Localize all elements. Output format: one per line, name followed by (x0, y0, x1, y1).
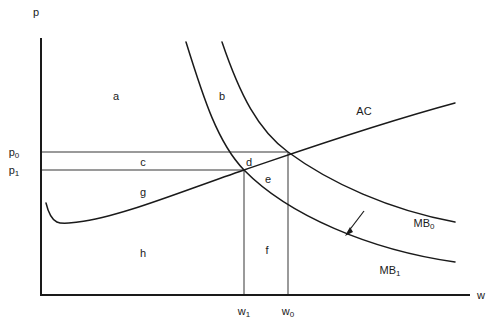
region-label-c: c (140, 157, 146, 168)
region-label-f: f (265, 245, 268, 256)
region-label-g: g (140, 187, 146, 198)
curve-label-mb1: MB1 (380, 265, 401, 276)
y-axis-label: p (33, 7, 39, 18)
economics-diagram: p w p0 p1 w1 w0 AC MB0 MB1 a b c d e f g… (0, 0, 499, 330)
curve-label-mb0: MB0 (414, 218, 435, 229)
x-tick-w0: w0 (282, 306, 294, 317)
curve-label-mb1-base: MB (380, 264, 397, 276)
y-tick-p1-sub: 1 (15, 169, 19, 178)
curve-label-ac: AC (356, 106, 371, 117)
x-tick-w0-base: w (282, 305, 290, 317)
curve-label-mb1-sub: 1 (396, 269, 400, 278)
region-label-d: d (246, 157, 252, 168)
y-tick-p0-sub: 0 (15, 151, 19, 160)
x-tick-w0-sub: 0 (290, 310, 294, 319)
curve-label-ac-base: AC (356, 105, 371, 117)
shift-arrow (345, 211, 364, 236)
x-tick-w1: w1 (238, 306, 250, 317)
y-tick-p0: p0 (9, 147, 20, 158)
x-axis-label: w (477, 290, 485, 301)
region-label-h: h (140, 248, 146, 259)
region-label-b: b (219, 91, 225, 102)
x-tick-w1-sub: 1 (246, 310, 250, 319)
curve-label-mb0-base: MB (414, 217, 431, 229)
y-tick-p1: p1 (9, 165, 20, 176)
region-label-a: a (113, 91, 119, 102)
mb0-curve (222, 42, 455, 222)
x-tick-w1-base: w (238, 305, 246, 317)
curve-label-mb0-sub: 0 (430, 222, 434, 231)
region-label-e: e (265, 174, 271, 185)
